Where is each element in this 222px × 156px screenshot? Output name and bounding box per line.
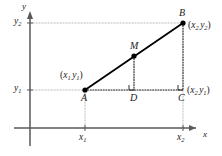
point-label-B: B bbox=[179, 8, 185, 18]
coord-label-B: (x2y2) bbox=[188, 21, 211, 31]
coord-label-B-x-sub: 2 bbox=[195, 24, 198, 31]
coord-label-C: (x2y1) bbox=[187, 86, 210, 96]
right-angle-mark-C bbox=[178, 85, 183, 90]
tick-label-x1-sub: 1 bbox=[83, 136, 86, 143]
y-axis-arrowhead bbox=[27, 11, 33, 19]
x-axis-arrowhead bbox=[189, 125, 196, 131]
tick-label-x2-sub: 2 bbox=[181, 136, 184, 143]
point-label-C: C bbox=[178, 93, 185, 103]
coord-label-B-close: ) bbox=[208, 20, 211, 30]
point-label-D: D bbox=[130, 93, 137, 103]
tick-label-x2: x2 bbox=[177, 133, 184, 143]
coord-label-C-close: ) bbox=[207, 85, 210, 95]
right-angle-mark-D bbox=[129, 85, 134, 90]
tick-label-y1-sub: 1 bbox=[18, 87, 21, 94]
tick-label-y2: y2 bbox=[14, 17, 21, 27]
axes bbox=[14, 11, 196, 146]
point-label-A: A bbox=[81, 93, 87, 103]
midpoint-figure: y x y2 y1 x1 x2 A M B D C (x1y1) (x2y2) … bbox=[0, 0, 222, 156]
coord-label-A-close: ) bbox=[80, 70, 83, 80]
right-angle-marks bbox=[129, 85, 183, 90]
x-axis-label: x bbox=[203, 130, 207, 139]
point-label-M: M bbox=[130, 41, 138, 51]
point-M-marker bbox=[131, 53, 136, 58]
tick-label-y2-sub: 2 bbox=[18, 20, 21, 27]
tick-label-x1: x1 bbox=[79, 133, 86, 143]
coord-label-A: (x1y1) bbox=[60, 71, 83, 81]
point-B-marker bbox=[180, 20, 185, 25]
tick-label-y1: y1 bbox=[14, 84, 21, 94]
coord-label-C-x-sub: 2 bbox=[194, 89, 197, 96]
coord-label-A-x-sub: 1 bbox=[67, 74, 70, 81]
y-axis-label: y bbox=[22, 2, 26, 11]
